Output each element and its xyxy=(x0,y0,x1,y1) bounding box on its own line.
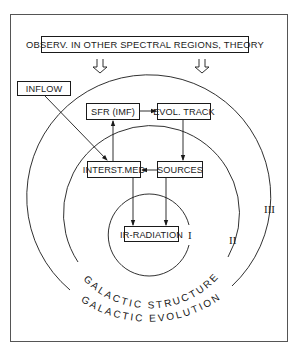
evol-track-label: EVOL. TRACK xyxy=(153,107,215,117)
circle-ii-numeral: II xyxy=(229,234,237,246)
sfr-imf-box: SFR (IMF) xyxy=(87,104,140,120)
open-arrow-left-icon xyxy=(93,59,107,73)
interst-med-box: INTERST.MED xyxy=(83,162,146,178)
evol-track-box: EVOL. TRACK xyxy=(153,104,215,120)
inflow-label: INFLOW xyxy=(26,84,63,94)
circle-i-numeral: I xyxy=(188,229,192,241)
diagram-canvas: I II III GALACTIC STRUCTURE GALACTIC EVO… xyxy=(0,0,295,351)
interst-med-label: INTERST.MED xyxy=(83,165,146,175)
sources-label: SOURCES xyxy=(157,165,203,175)
sources-box: SOURCES xyxy=(157,162,203,178)
figure-frame xyxy=(11,15,288,342)
circle-iii-numeral: III xyxy=(264,203,275,215)
open-arrow-right-icon xyxy=(195,59,209,73)
ir-radiation-box: IR-RADIATION xyxy=(120,227,183,242)
inflow-box: INFLOW xyxy=(18,82,71,96)
sfr-imf-label: SFR (IMF) xyxy=(91,107,135,117)
ir-radiation-label: IR-RADIATION xyxy=(120,230,183,240)
observations-theory-box: OBSERV. IN OTHER SPECTRAL REGIONS, THEOR… xyxy=(26,37,264,53)
observations-theory-label: OBSERV. IN OTHER SPECTRAL REGIONS, THEOR… xyxy=(26,39,264,50)
